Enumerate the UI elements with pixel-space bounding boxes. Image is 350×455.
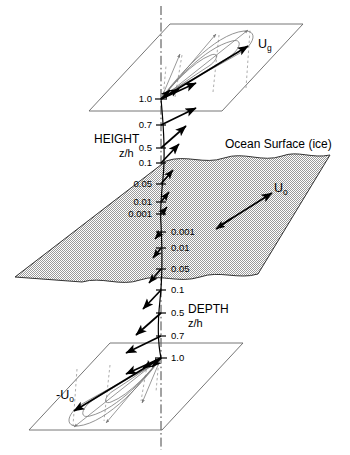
tick-lower-4: 0.1 [171,284,184,295]
tick-upper-4: 0.1 [139,157,152,168]
depth-axis-title: DEPTH [188,302,229,316]
tick-lower-6: 0.7 [171,330,184,341]
tick-upper-1: 1.0 [139,93,152,104]
top-hodograph-thin-rays [161,30,248,99]
depth-axis-subtitle: z/h [188,317,203,329]
bottom-velocity-vectors [74,358,161,411]
geostrophic-vector-label: Ug [258,37,272,53]
tick-lower-2: 0.01 [171,242,190,253]
tick-upper-7: 0.001 [128,208,152,219]
tick-upper-5: 0.05 [134,178,153,189]
tick-lower-5: 0.5 [171,307,184,318]
top-hodograph-envelope [161,31,253,99]
bottom-hodograph-thin-rays [74,358,161,427]
ekman-spiral-figure: Ug Ocean Surface (ice) Uo [0,0,350,455]
tick-lower-1: 0.001 [171,226,195,237]
top-velocity-vectors [161,46,248,99]
tick-upper-6: 0.01 [134,196,153,207]
tick-lower-3: 0.05 [171,263,190,274]
tick-lower-7: 1.0 [171,352,184,363]
diagram-canvas: Ug Ocean Surface (ice) Uo [0,0,350,455]
height-axis-subtitle: z/h [119,147,134,159]
tick-upper-3: 0.5 [139,142,152,153]
bottom-hodograph-envelope [69,358,161,426]
ocean-surface-label: Ocean Surface (ice) [225,137,332,151]
height-axis-title: HEIGHT [94,132,140,146]
negative-ocean-vector-label: -Uo [56,388,74,404]
top-plane [89,24,303,111]
tick-upper-2: 0.7 [139,119,152,130]
